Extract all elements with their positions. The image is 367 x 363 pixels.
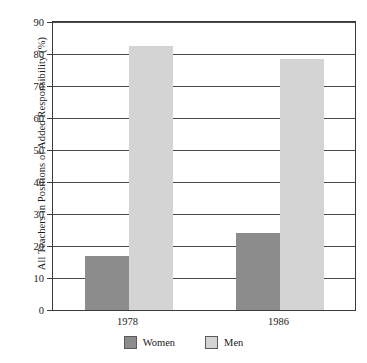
y-axis-tick — [47, 278, 53, 279]
y-axis-tick — [47, 54, 53, 55]
y-axis-tick — [47, 310, 53, 311]
y-gridline — [53, 22, 355, 23]
bar-chart-figure: All Teachers in Positions of Added Respo… — [0, 0, 367, 363]
y-axis-tick — [47, 86, 53, 87]
legend-label: Men — [224, 337, 243, 348]
chart-legend: WomenMen — [0, 336, 367, 349]
bar-women-1978 — [85, 256, 129, 310]
x-axis-tick-label: 1986 — [268, 316, 289, 327]
y-axis-tick-label: 80 — [34, 49, 45, 60]
y-axis-tick-label: 70 — [34, 81, 45, 92]
y-axis-tick-label: 0 — [39, 305, 44, 316]
bar-women-1986 — [236, 233, 280, 310]
y-axis-tick-label: 90 — [34, 17, 45, 28]
legend-item-women: Women — [124, 336, 175, 349]
bar-men-1978 — [129, 46, 173, 310]
y-axis-tick-label: 10 — [34, 273, 45, 284]
y-axis-tick-label: 60 — [34, 113, 45, 124]
plot-area: 0102030405060708090 — [52, 21, 356, 311]
legend-item-men: Men — [205, 336, 243, 349]
legend-label: Women — [143, 337, 175, 348]
y-axis-tick — [47, 182, 53, 183]
y-axis-tick — [47, 150, 53, 151]
legend-swatch-women — [124, 336, 137, 349]
y-axis-tick-label: 50 — [34, 145, 45, 156]
x-axis-tick-label: 1978 — [117, 316, 138, 327]
bar-men-1986 — [280, 59, 324, 310]
y-axis-tick-label: 20 — [34, 241, 45, 252]
y-axis-tick-label: 30 — [34, 209, 45, 220]
y-axis-tick — [47, 118, 53, 119]
legend-swatch-men — [205, 336, 218, 349]
y-axis-tick — [47, 246, 53, 247]
plot-inner: 0102030405060708090 — [53, 22, 355, 310]
y-gridline — [53, 54, 355, 55]
y-axis-tick — [47, 22, 53, 23]
y-axis-tick-label: 40 — [34, 177, 45, 188]
y-axis-tick — [47, 214, 53, 215]
